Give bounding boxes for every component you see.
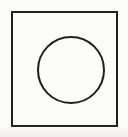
circle-outline: [38, 37, 104, 103]
figure-canvas: Square with inscribed circle: [0, 0, 128, 137]
square-outline: [12, 12, 117, 126]
line-drawing: [0, 0, 128, 137]
